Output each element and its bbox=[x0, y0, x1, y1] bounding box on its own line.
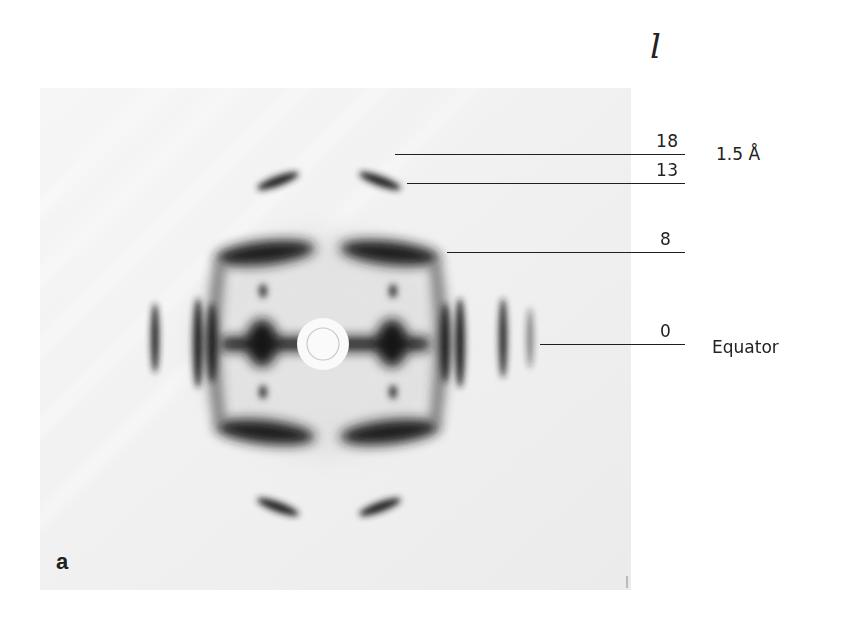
layer-line-13-leader bbox=[407, 183, 685, 184]
layer-line-13-index: 13 bbox=[656, 160, 679, 180]
layer-line-18-index: 18 bbox=[656, 131, 679, 151]
equator-label: Equator bbox=[712, 337, 779, 357]
diffraction-pattern-image bbox=[40, 88, 631, 590]
layer-line-0-leader bbox=[540, 344, 685, 345]
layer-line-8-index: 8 bbox=[660, 229, 671, 249]
layer-line-0-index: 0 bbox=[660, 321, 671, 341]
panel-label: a bbox=[56, 549, 68, 575]
spacing-annotation: 1.5 Å bbox=[716, 144, 760, 164]
layer-line-18-leader bbox=[395, 154, 685, 155]
layer-line-8-leader bbox=[447, 252, 685, 253]
layer-line-index-symbol: l bbox=[650, 26, 661, 66]
